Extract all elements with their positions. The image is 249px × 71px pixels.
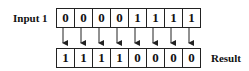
- result-label: Result: [211, 52, 241, 64]
- result-bit: 0: [129, 49, 147, 67]
- result-bit: 0: [147, 49, 165, 67]
- result-bit: 1: [93, 49, 111, 67]
- result-bit: 0: [165, 49, 183, 67]
- result-bit: 1: [75, 49, 93, 67]
- result-bit: 1: [111, 49, 129, 67]
- result-bit: 1: [57, 49, 75, 67]
- result-bit: 0: [183, 49, 200, 67]
- result-register: 1 1 1 1 0 0 0 0: [56, 48, 201, 68]
